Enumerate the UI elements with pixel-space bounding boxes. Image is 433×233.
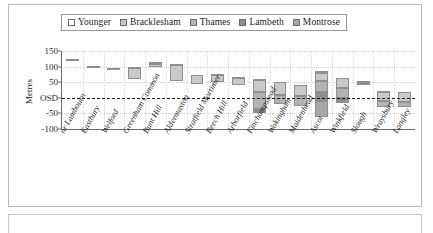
screenshot-root: YoungerBrackleshamThamesLambethMontrose … <box>0 0 433 233</box>
grid-column <box>332 51 333 129</box>
x-axis-labels: nr LambournEastburyWelfordGreenham Commo… <box>48 131 401 203</box>
grid-column <box>166 51 167 129</box>
grid-column <box>124 51 125 129</box>
bottom-strip <box>8 214 422 233</box>
y-tick-label: 50 <box>49 78 58 87</box>
legend-swatch-icon <box>120 19 127 26</box>
osd-reference-line <box>62 98 415 99</box>
grid-column <box>394 51 395 129</box>
bar-segment-bracklesham[interactable] <box>294 85 307 96</box>
bar-segment-bracklesham[interactable] <box>253 80 266 92</box>
bar-segment-younger[interactable] <box>66 59 79 61</box>
grid-column <box>353 51 354 129</box>
y-tick-label: 150 <box>45 47 59 56</box>
legend-label: Bracklesham <box>130 18 181 28</box>
legend-item-thames[interactable]: Thames <box>190 18 231 28</box>
legend-item-younger[interactable]: Younger <box>68 18 111 28</box>
legend-label: Montrose <box>303 18 340 28</box>
legend-swatch-icon <box>68 19 75 26</box>
bar-segment-lambeth[interactable] <box>315 92 328 101</box>
legend-label: Younger <box>78 18 111 28</box>
grid-column <box>290 51 291 129</box>
bar-segment-bracklesham[interactable] <box>128 68 141 79</box>
legend-swatch-icon <box>190 19 197 26</box>
grid-column <box>104 51 105 129</box>
grid-column <box>311 51 312 129</box>
bar-segment-younger[interactable] <box>87 66 100 68</box>
legend-item-lambeth[interactable]: Lambeth <box>239 18 283 28</box>
y-tick-label: -50 <box>46 109 58 118</box>
grid-column <box>187 51 188 129</box>
bar-segment-bracklesham[interactable] <box>357 83 370 85</box>
y-tick-label: 100 <box>45 62 59 71</box>
grid-column <box>228 51 229 129</box>
bar-segment-bracklesham[interactable] <box>170 65 183 81</box>
bar-segment-thames[interactable] <box>398 102 411 107</box>
grid-column <box>83 51 84 129</box>
y-tick-label: OSD <box>40 93 58 102</box>
legend-swatch-icon <box>293 19 300 26</box>
chart-legend: YoungerBrackleshamThamesLambethMontrose <box>61 14 347 31</box>
legend-item-bracklesham[interactable]: Bracklesham <box>120 18 181 28</box>
y-axis-ticks: 15010050OSD-50-100 <box>35 51 61 129</box>
legend-item-montrose[interactable]: Montrose <box>293 18 340 28</box>
grid-column <box>373 51 374 129</box>
bar-segment-bracklesham[interactable] <box>149 64 162 66</box>
bar-segment-thames[interactable] <box>315 81 328 92</box>
legend-label: Thames <box>200 18 231 28</box>
bar-segment-bracklesham[interactable] <box>191 75 204 83</box>
bar-segment-bracklesham[interactable] <box>315 73 328 81</box>
legend-swatch-icon <box>239 19 246 26</box>
x-axis-line <box>61 129 415 130</box>
y-axis-title-text: Metres <box>25 79 34 104</box>
chart-panel: YoungerBrackleshamThamesLambethMontrose … <box>8 4 422 207</box>
bar-segment-bracklesham[interactable] <box>232 78 245 84</box>
bar-segment-thames[interactable] <box>336 88 349 97</box>
legend-label: Lambeth <box>249 18 283 28</box>
y-axis-title: Metres <box>23 65 35 117</box>
grid-column <box>249 51 250 129</box>
bar-segment-bracklesham[interactable] <box>336 78 349 88</box>
bar-segment-younger[interactable] <box>107 68 120 70</box>
